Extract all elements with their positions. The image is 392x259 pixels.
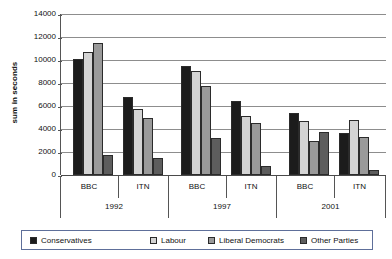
y-tick-label: 10000 [0,56,56,64]
bar-labour-1992-bbc [83,52,93,175]
x-axis-right-edge [385,176,386,218]
bar-liberal-democrats-1997-bbc [201,86,211,175]
y-tick-label: 14000 [0,10,56,18]
bar-other-parties-1997-bbc [211,138,221,175]
x-axis-label-itn-1992: ITN [118,176,168,198]
bar-conservatives-1997-bbc [181,66,191,175]
axis-separator [168,176,169,198]
bars-layer [61,14,386,175]
axis-separator [276,198,277,218]
bar-conservatives-1997-itn [231,101,241,175]
axis-separator [118,176,119,198]
x-axis-label-bbc-1997: BBC [168,176,226,198]
x-axis-year-2001: 2001 [276,198,385,218]
y-tick-label: 6000 [0,102,56,110]
legend-item-liberal-democrats[interactable]: Liberal Democrats [208,231,284,249]
legend-item-label: Conservatives [41,236,92,245]
y-tick-label: 12000 [0,33,56,41]
legend-swatch-icon [30,237,37,244]
x-axis-label-itn-1997: ITN [226,176,276,198]
bar-other-parties-1992-itn [153,158,163,175]
x-axis-label-bbc-2001: BBC [276,176,334,198]
legend-item-other-parties[interactable]: Other Parties [300,231,358,249]
legend-swatch-icon [150,237,157,244]
bar-conservatives-1992-bbc [73,59,83,175]
x-axis-year-1997: 1997 [168,198,276,218]
bar-conservatives-1992-itn [123,97,133,175]
axis-separator [334,176,335,198]
axis-separator [60,198,61,218]
x-axis-label-bbc-1992: BBC [60,176,118,198]
bar-liberal-democrats-1992-itn [143,118,153,176]
bar-conservatives-2001-itn [339,133,349,175]
x-axis-label-itn-2001: ITN [334,176,385,198]
legend-swatch-icon [300,237,307,244]
plot-area [60,14,385,175]
bar-conservatives-2001-bbc [289,113,299,175]
bar-other-parties-2001-itn [369,170,379,175]
bar-other-parties-1997-itn [261,166,271,175]
chart-legend: ConservativesLabourLiberal DemocratsOthe… [21,230,373,250]
bar-labour-1992-itn [133,109,143,175]
bar-labour-2001-bbc [299,121,309,175]
legend-item-label: Other Parties [311,236,358,245]
bar-other-parties-2001-bbc [319,132,329,175]
x-axis-year-1992: 1992 [60,198,168,218]
legend-item-label: Liberal Democrats [219,236,284,245]
x-axis-outlet-labels: BBCITNBBCITNBBCITN [60,176,385,198]
axis-separator [168,198,169,218]
bar-labour-1997-itn [241,116,251,175]
axis-separator [226,176,227,198]
x-axis-year-labels: 199219972001 [60,198,385,218]
bar-liberal-democrats-1997-itn [251,123,261,175]
legend-item-labour[interactable]: Labour [150,231,186,249]
axis-separator [60,176,61,198]
y-tick-label: 8000 [0,79,56,87]
bar-liberal-democrats-2001-itn [359,137,369,175]
legend-item-conservatives[interactable]: Conservatives [30,231,92,249]
bar-liberal-democrats-1992-bbc [93,43,103,175]
bar-other-parties-1992-bbc [103,155,113,175]
legend-swatch-icon [208,237,215,244]
legend-item-label: Labour [161,236,186,245]
y-tick-label: 0 [0,171,56,179]
y-tick-label: 2000 [0,148,56,156]
axis-separator [276,176,277,198]
bar-chart: sum in seconds 1400012000100008000600040… [0,0,392,259]
bar-labour-2001-itn [349,120,359,175]
bar-liberal-democrats-2001-bbc [309,141,319,176]
y-tick-label: 4000 [0,125,56,133]
bar-labour-1997-bbc [191,71,201,175]
